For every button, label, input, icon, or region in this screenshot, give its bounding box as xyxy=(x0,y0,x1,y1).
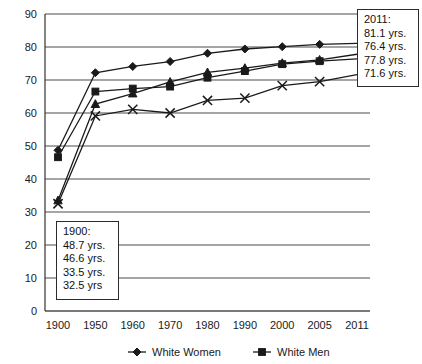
annotation-2011-line-1: 81.1 yrs. xyxy=(364,27,413,41)
y-tick-label-20: 20 xyxy=(25,239,37,251)
x-axis-tick-labels: 190019501960197019801990200020052011 xyxy=(46,319,369,331)
y-tick-label-40: 40 xyxy=(25,173,37,185)
annotation-2011-line-4: 71.6 yrs. xyxy=(364,67,413,81)
x-tick-label-1950: 1950 xyxy=(83,319,107,331)
x-tick-label-2011: 2011 xyxy=(345,319,369,331)
annotation-box-2011: 2011: 81.1 yrs. 76.4 yrs. 77.8 yrs. 71.6… xyxy=(357,9,419,87)
x-tick-label-2000: 2000 xyxy=(270,319,294,331)
data-point-white-men-1950 xyxy=(92,88,99,95)
y-tick-label-50: 50 xyxy=(25,140,37,152)
y-tick-label-90: 90 xyxy=(25,8,37,20)
data-point-white-women-1960 xyxy=(129,62,137,70)
chart-legend: White WomenWhite Men xyxy=(128,346,330,358)
annotation-box-1900: 1900: 48.7 yrs. 46.6 yrs. 33.5 yrs. 32.5… xyxy=(56,221,119,300)
series-line-black-men xyxy=(58,75,357,204)
series-line-white-women xyxy=(58,43,357,150)
annotation-2011-line-2: 76.4 yrs. xyxy=(364,40,413,54)
x-tick-label-1970: 1970 xyxy=(158,319,182,331)
y-tick-label-10: 10 xyxy=(25,272,37,284)
annotation-1900-line-2: 46.6 yrs. xyxy=(63,252,113,266)
annotation-2011-heading: 2011: xyxy=(364,13,413,27)
data-point-white-women-2000 xyxy=(278,43,286,51)
annotation-1900-line-4: 32.5 yrs xyxy=(63,279,113,293)
data-point-white-women-1970 xyxy=(166,58,174,66)
x-tick-label-2005: 2005 xyxy=(307,319,331,331)
data-point-white-men-1900 xyxy=(55,154,62,161)
life-expectancy-line-chart: 0102030405060708090 19001950196019701980… xyxy=(0,0,422,364)
data-series-markers xyxy=(53,40,324,208)
x-tick-label-1900: 1900 xyxy=(46,319,70,331)
legend-label-white-men: White Men xyxy=(277,346,330,358)
annotation-1900-line-3: 33.5 yrs. xyxy=(63,266,113,280)
y-tick-label-30: 30 xyxy=(25,206,37,218)
data-point-white-women-1990 xyxy=(241,45,249,53)
data-point-white-women-1950 xyxy=(91,69,99,77)
annotation-1900-line-1: 48.7 yrs. xyxy=(63,239,113,253)
legend-label-white-women: White Women xyxy=(152,346,221,358)
x-tick-label-1990: 1990 xyxy=(233,319,257,331)
y-tick-label-70: 70 xyxy=(25,74,37,86)
y-tick-label-0: 0 xyxy=(31,305,37,317)
y-tick-label-80: 80 xyxy=(25,41,37,53)
x-tick-label-1980: 1980 xyxy=(195,319,219,331)
legend-marker-square-icon xyxy=(259,349,266,356)
annotation-2011-line-3: 77.8 yrs. xyxy=(364,54,413,68)
y-axis-tick-labels: 0102030405060708090 xyxy=(25,8,37,317)
y-tick-label-60: 60 xyxy=(25,107,37,119)
legend-marker-diamond-icon xyxy=(133,348,141,356)
x-tick-label-1960: 1960 xyxy=(121,319,145,331)
data-point-white-women-1980 xyxy=(204,49,212,57)
annotation-1900-heading: 1900: xyxy=(63,225,113,239)
